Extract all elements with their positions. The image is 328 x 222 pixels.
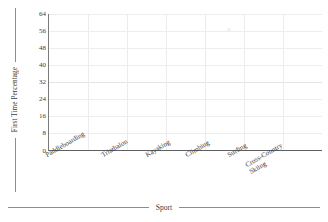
gridline-horizontal bbox=[49, 133, 322, 134]
y-tick-label: 56 bbox=[39, 28, 46, 35]
y-tick-label: 32 bbox=[39, 79, 46, 86]
x-axis-title-rule-right bbox=[179, 207, 320, 208]
y-tick-label: 48 bbox=[39, 45, 46, 52]
gridline-horizontal bbox=[49, 116, 322, 117]
x-axis-tick-labels: Paddleboarding Triathalon Kayaking Climb… bbox=[48, 152, 322, 198]
y-axis-title-rule-bottom bbox=[15, 138, 16, 192]
gridline-horizontal bbox=[49, 14, 322, 15]
plot-area bbox=[48, 14, 322, 151]
x-axis-title-block: Sport bbox=[8, 201, 320, 213]
faint-mark bbox=[227, 28, 231, 31]
chart-container: First Time Percentage 64 56 48 40 32 24 … bbox=[0, 0, 328, 222]
y-axis-title-block: First Time Percentage bbox=[6, 8, 24, 192]
y-tick-label: 40 bbox=[39, 62, 46, 69]
gridline-vertical bbox=[283, 14, 284, 150]
gridline-vertical bbox=[205, 14, 206, 150]
gridline-horizontal bbox=[49, 99, 322, 100]
gridline-horizontal bbox=[49, 65, 322, 66]
gridline-horizontal bbox=[49, 31, 322, 32]
plot-gridlines bbox=[49, 14, 322, 150]
y-tick-label: 8 bbox=[43, 130, 47, 137]
x-axis-title-rule-left bbox=[8, 207, 149, 208]
gridline-horizontal bbox=[49, 48, 322, 49]
gridline-vertical bbox=[244, 14, 245, 150]
y-axis-title-rule-top bbox=[15, 8, 16, 62]
gridline-vertical bbox=[166, 14, 167, 150]
y-tick-label: 64 bbox=[39, 11, 46, 18]
y-tick-label: 16 bbox=[39, 113, 46, 120]
gridline-vertical bbox=[88, 14, 89, 150]
x-axis-title: Sport bbox=[149, 203, 179, 212]
y-tick-label: 24 bbox=[39, 96, 46, 103]
y-axis-tick-labels: 64 56 48 40 32 24 16 8 0 bbox=[26, 0, 46, 160]
gridline-vertical bbox=[127, 14, 128, 150]
gridline-horizontal bbox=[49, 82, 322, 83]
y-axis-title: First Time Percentage bbox=[11, 62, 19, 137]
